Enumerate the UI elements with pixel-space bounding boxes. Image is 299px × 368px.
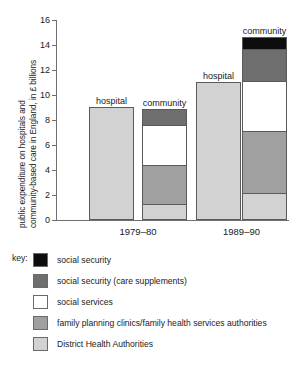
legend-item-label: family planning clinics/family health se… — [57, 318, 267, 328]
bar-1989-90-community[interactable] — [242, 37, 287, 221]
bar-top-label-hospital: hospital — [203, 71, 234, 81]
bar-1979-80-community[interactable] — [142, 109, 187, 220]
bar-segment — [143, 166, 186, 206]
y-tick-2: 2 — [56, 195, 57, 196]
x-axis-label-0: 1979–80 — [120, 226, 157, 237]
bar-segment — [243, 38, 286, 50]
y-tick-label: 8 — [45, 115, 50, 125]
y-tick-label: 6 — [45, 140, 50, 150]
y-tick-mark — [52, 45, 56, 46]
legend-swatch-icon — [33, 295, 48, 309]
bar-top-label-community: community — [143, 98, 187, 108]
y-axis-title-line-2: community-based care in England, in £ bi… — [28, 60, 39, 228]
legend-item: social security (care supplements) — [0, 270, 299, 291]
bar-1989-90-hospital[interactable] — [196, 82, 241, 221]
legend-swatch-icon — [33, 274, 48, 288]
y-tick-16: 16 — [56, 20, 57, 21]
y-tick-label: 16 — [40, 15, 50, 25]
y-tick-6: 6 — [56, 145, 57, 146]
y-tick-0: 0 — [56, 220, 57, 221]
y-tick-mark — [52, 195, 56, 196]
chart-figure: public expenditure on hospitals and comm… — [0, 0, 299, 368]
bar-segment — [243, 194, 286, 219]
y-axis-title-line-1: public expenditure on hospitals and — [17, 100, 28, 228]
bar-segment — [143, 205, 186, 219]
bar-segment — [243, 82, 286, 132]
legend-swatch-icon — [33, 337, 48, 351]
legend-swatch-icon — [33, 316, 48, 330]
y-tick-mark — [52, 220, 56, 221]
y-tick-label: 12 — [40, 65, 50, 75]
y-tick-mark — [52, 145, 56, 146]
y-tick-mark — [52, 95, 56, 96]
bar-segment — [243, 132, 286, 194]
y-tick-mark — [52, 70, 56, 71]
legend-item: social services — [0, 291, 299, 312]
x-axis-line — [56, 220, 289, 221]
bar-segment — [197, 83, 240, 220]
y-tick-8: 8 — [56, 120, 57, 121]
y-axis-title: public expenditure on hospitals and comm… — [2, 0, 38, 240]
y-tick-label: 0 — [45, 215, 50, 225]
bar-top-label-community: community — [243, 26, 287, 36]
legend-swatch-icon — [33, 253, 48, 267]
y-tick-label: 2 — [45, 190, 50, 200]
bar-1979-80-hospital[interactable] — [89, 107, 134, 221]
legend-item: social security — [0, 249, 299, 270]
y-tick-label: 14 — [40, 40, 50, 50]
y-tick-mark — [52, 120, 56, 121]
bar-segment — [90, 108, 133, 220]
legend-item-label: social security (care supplements) — [57, 276, 187, 286]
y-tick-4: 4 — [56, 170, 57, 171]
plot-area: 0246810121416 hospitalcommunityhospitalc… — [56, 20, 289, 221]
bar-segment — [243, 50, 286, 82]
y-tick-10: 10 — [56, 95, 57, 96]
y-tick-mark — [52, 20, 56, 21]
y-tick-mark — [52, 170, 56, 171]
bar-top-label-hospital: hospital — [96, 96, 127, 106]
bar-segment — [143, 126, 186, 166]
legend-item-label: social services — [57, 297, 113, 307]
legend-item: family planning clinics/family health se… — [0, 312, 299, 333]
legend-item-label: District Health Authorities — [57, 339, 153, 349]
y-tick-label: 4 — [45, 165, 50, 175]
y-tick-12: 12 — [56, 70, 57, 71]
y-tick-14: 14 — [56, 45, 57, 46]
x-axis-label-1: 1989–90 — [223, 226, 260, 237]
legend-item: District Health Authorities — [0, 333, 299, 354]
legend-item-label: social security — [57, 255, 111, 265]
bar-segment — [143, 110, 186, 126]
chart-legend: key: social securitysocial security (car… — [0, 249, 299, 354]
y-tick-label: 10 — [40, 90, 50, 100]
